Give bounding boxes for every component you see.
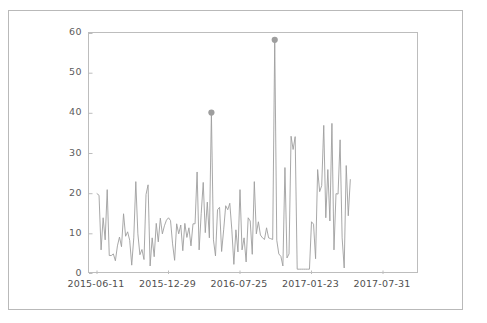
x-tick-label: 2017-01-23 xyxy=(282,278,339,289)
x-axis-tick-labels: 2015-06-11 2015-12-29 2016-07-25 2017-01… xyxy=(88,278,418,296)
x-tick-label: 2017-07-31 xyxy=(353,278,410,289)
y-tick-label: 50 xyxy=(56,67,82,77)
y-tick-marks xyxy=(89,34,93,274)
chart-figure: 60 50 40 30 20 10 0 xyxy=(0,0,487,323)
y-tick-label: 10 xyxy=(56,228,82,238)
y-tick-label: 60 xyxy=(56,27,82,37)
y-tick-label: 20 xyxy=(56,188,82,198)
y-tick-label: 0 xyxy=(56,268,82,278)
x-tick-label: 2015-12-29 xyxy=(139,278,196,289)
plot-svg xyxy=(89,33,419,274)
y-axis-tick-labels: 60 50 40 30 20 10 0 xyxy=(52,32,82,273)
data-series-line xyxy=(97,40,350,269)
plot-area xyxy=(88,32,418,273)
y-tick-label: 30 xyxy=(56,148,82,158)
y-tick-label: 40 xyxy=(56,107,82,117)
data-peak-markers xyxy=(208,37,278,116)
x-tick-label: 2016-07-25 xyxy=(210,278,267,289)
peak-marker xyxy=(272,37,278,43)
peak-marker xyxy=(208,109,214,115)
x-tick-label: 2015-06-11 xyxy=(67,278,124,289)
x-tick-marks xyxy=(97,271,383,275)
